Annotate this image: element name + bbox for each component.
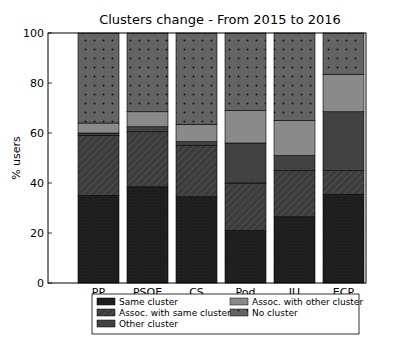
bar-segment-iu-no-cluster [274, 33, 315, 121]
bar-segment-pod-no-cluster [225, 33, 266, 111]
chart-title: Clusters change - From 2015 to 2016 [99, 12, 341, 27]
legend-swatch-assoc-other [230, 298, 248, 305]
bar-segment-psoe-assoc-with-other-cluster [127, 112, 168, 127]
bar-segment-cs-same-cluster [176, 197, 217, 283]
bar-segment-iu-assoc-with-same-cluster [274, 171, 315, 217]
bar-segment-pp-assoc-with-other-cluster [78, 123, 119, 133]
bar-segment-ecp-no-cluster [323, 33, 364, 74]
legend-swatch-same-cluster [97, 298, 115, 305]
y-axis-label: % users [10, 136, 23, 180]
y-tick-label: 80 [30, 77, 44, 90]
legend-swatch-no-cluster [230, 309, 248, 316]
legend: Same cluster Assoc. with other cluster A… [92, 294, 363, 334]
bar-segment-ecp-assoc-with-other-cluster [323, 74, 364, 112]
bar-segment-pod-assoc-with-same-cluster [225, 183, 266, 231]
bar-segment-pp-no-cluster [78, 33, 119, 123]
bar-segment-psoe-other-cluster [127, 127, 168, 132]
legend-label-assoc-same: Assoc. with same cluster [119, 308, 231, 318]
bar-segment-psoe-assoc-with-same-cluster [127, 132, 168, 187]
legend-label-same-cluster: Same cluster [119, 297, 178, 307]
bar-segment-iu-same-cluster [274, 217, 315, 283]
bar-segment-cs-assoc-with-same-cluster [176, 146, 217, 197]
y-tick-label: 40 [30, 177, 44, 190]
bar-segment-pp-other-cluster [78, 133, 119, 136]
bar-segment-pod-same-cluster [225, 231, 266, 284]
bar-segment-pp-same-cluster [78, 196, 119, 284]
legend-swatch-other-cluster [97, 320, 115, 327]
y-tick-label: 0 [37, 277, 44, 290]
bar-segment-cs-other-cluster [176, 142, 217, 146]
y-tick-label: 100 [23, 27, 44, 40]
legend-label-assoc-other: Assoc. with other cluster [252, 297, 363, 307]
bars-group [78, 33, 364, 283]
bar-segment-pod-assoc-with-other-cluster [225, 111, 266, 144]
bar-segment-ecp-other-cluster [323, 112, 364, 171]
bar-segment-pod-other-cluster [225, 143, 266, 183]
bar-segment-pp-assoc-with-same-cluster [78, 136, 119, 196]
bar-segment-psoe-same-cluster [127, 187, 168, 283]
legend-swatch-assoc-same [97, 309, 115, 316]
bar-segment-ecp-assoc-with-same-cluster [323, 171, 364, 195]
y-tick-label: 60 [30, 127, 44, 140]
bar-segment-cs-assoc-with-other-cluster [176, 124, 217, 142]
bar-segment-psoe-no-cluster [127, 33, 168, 112]
stacked-bar-chart: Clusters change - From 2015 to 2016 % us… [0, 0, 414, 358]
y-tick-label: 20 [30, 227, 44, 240]
bar-segment-iu-other-cluster [274, 156, 315, 171]
bar-segment-iu-assoc-with-other-cluster [274, 121, 315, 156]
bar-segment-cs-no-cluster [176, 33, 217, 124]
legend-label-other-cluster: Other cluster [119, 319, 178, 329]
bar-segment-ecp-same-cluster [323, 194, 364, 283]
legend-label-no-cluster: No cluster [252, 308, 298, 318]
